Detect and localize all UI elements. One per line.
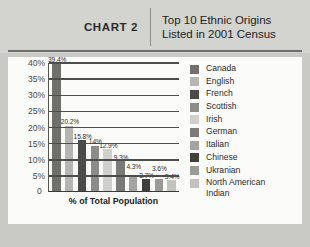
y-tick-zero: 0 [37, 186, 42, 196]
x-axis-label: % of Total Population [48, 196, 179, 206]
legend-item-label: Ukranian [206, 165, 240, 176]
legend-swatch-icon [190, 103, 199, 112]
legend-item-label: French [206, 88, 233, 99]
y-tick-label: 20% [28, 123, 45, 133]
legend-item-label: North American Indian [206, 177, 265, 198]
legend-item-label: English [206, 76, 234, 87]
plot-area: 39.4%20.2%15.8%14%12.9%9.3%4.3%3.7%3.6%3… [48, 63, 179, 192]
legend-swatch-icon [190, 179, 199, 188]
header-content: CHART 2 Top 10 Ethnic Origins Listed in … [8, 8, 302, 46]
legend-item[interactable]: Italian [190, 139, 296, 150]
chart-title-cell: Top 10 Ethnic Origins Listed in 2001 Cen… [151, 13, 276, 42]
legend-item[interactable]: German [190, 126, 296, 137]
y-tick-label: 25% [28, 106, 45, 116]
legend-swatch-icon [190, 141, 199, 150]
gridline [49, 111, 179, 113]
chart-header: CHART 2 Top 10 Ethnic Origins Listed in … [0, 0, 310, 53]
legend-item[interactable]: Ukranian [190, 165, 296, 176]
legend-item[interactable]: North American Indian [190, 177, 296, 198]
chart-title-line-1: Top 10 Ethnic Origins [162, 13, 276, 28]
legend-item[interactable]: French [190, 88, 296, 99]
legend-item[interactable]: Chinese [190, 152, 296, 163]
legend-item[interactable]: Irish [190, 114, 296, 125]
legend-item-label: Chinese [206, 152, 238, 163]
legend-swatch-icon [190, 77, 199, 86]
y-axis: 40%35%30%25%20%15%10%5% [20, 63, 47, 192]
legend-item-label: Italian [206, 139, 229, 150]
legend-item-label: Canada [206, 63, 236, 74]
legend-item-label: Irish [206, 114, 222, 125]
legend-item[interactable]: English [190, 76, 296, 87]
gridline [49, 78, 179, 80]
gridline [49, 143, 179, 145]
bar[interactable]: 12.9% [103, 149, 112, 191]
y-tick-label: 35% [28, 74, 45, 84]
legend-item[interactable]: Scottish [190, 101, 296, 112]
gridline [49, 175, 179, 177]
bar[interactable]: 15.8% [78, 140, 87, 191]
y-tick-label: 10% [28, 155, 45, 165]
plot-wrapper: 40%35%30%25%20%15%10%5% 39.4%20.2%15.8%1… [20, 63, 186, 213]
chart-panel: 40%35%30%25%20%15%10%5% 39.4%20.2%15.8%1… [8, 57, 302, 224]
y-tick-label: 5% [33, 171, 45, 181]
y-tick-label: 40% [28, 58, 45, 68]
bar[interactable]: 14% [91, 146, 100, 191]
bar[interactable]: 4.3% [129, 177, 138, 191]
bar[interactable]: 3.4% [167, 180, 176, 191]
legend-swatch-icon [190, 65, 199, 74]
legend-swatch-icon [190, 128, 199, 137]
bar[interactable]: 3.6% [155, 179, 164, 191]
legend-swatch-icon [190, 115, 199, 124]
gridline [49, 95, 179, 97]
legend-item-label: Scottish [206, 101, 237, 112]
y-tick-label: 30% [28, 90, 45, 100]
legend-swatch-icon [190, 166, 199, 175]
header-horizontal-rule [8, 50, 302, 52]
gridline [49, 159, 179, 161]
y-tick-label: 15% [28, 139, 45, 149]
chart-number-label: CHART 2 [8, 21, 138, 33]
chart-title-line-2: Listed in 2001 Census [162, 27, 276, 42]
chart-number-cell: CHART 2 [8, 21, 150, 33]
chart-page: CHART 2 Top 10 Ethnic Origins Listed in … [0, 0, 310, 247]
chart-legend: CanadaEnglishFrenchScottishIrishGermanIt… [190, 63, 296, 200]
bar[interactable]: 3.7% [142, 179, 151, 191]
legend-swatch-icon [190, 153, 199, 162]
legend-item[interactable]: Canada [190, 63, 296, 74]
legend-item-label: German [206, 126, 237, 137]
gridline [49, 127, 179, 129]
legend-swatch-icon [190, 90, 199, 99]
gridline [49, 62, 179, 64]
